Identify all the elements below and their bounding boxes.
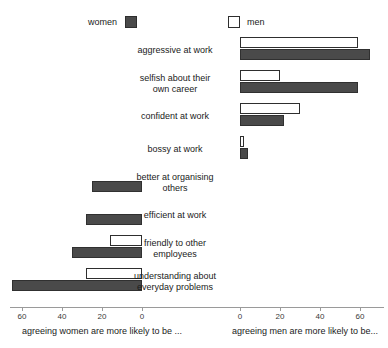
bar-women: [12, 280, 142, 291]
axis-tick: [320, 307, 321, 311]
grouped-diverging-bar-chart: women men aggressive at workselfish abou…: [0, 0, 388, 348]
axis-baseline: [10, 307, 384, 308]
axis-tick: [62, 307, 63, 311]
chart-row: efficient at work: [0, 199, 388, 232]
axis-tick-label-left: 60: [18, 312, 27, 321]
bar-women: [92, 181, 142, 192]
axis-title-right: agreeing men are more likely to be...: [232, 326, 378, 337]
legend-label-men: men: [247, 17, 265, 27]
category-label: aggressive at work: [118, 34, 232, 67]
axis-tick: [280, 307, 281, 311]
axis-tick-label-right: 40: [316, 312, 325, 321]
bar-men: [240, 37, 358, 48]
axis-tick: [142, 307, 143, 311]
bar-women: [86, 214, 142, 225]
axis-tick-label-right: 0: [238, 312, 242, 321]
category-label: bossy at work: [118, 133, 232, 166]
bar-women: [240, 148, 248, 159]
chart-legend: women men: [0, 14, 388, 34]
bar-men: [240, 103, 300, 114]
axis-tick: [360, 307, 361, 311]
bar-men: [86, 268, 142, 279]
bar-men: [110, 235, 142, 246]
bar-men: [240, 136, 244, 147]
category-label: confident at work: [118, 100, 232, 133]
legend-swatch-women-icon: [125, 16, 137, 28]
axis-tick-label-left: 20: [98, 312, 107, 321]
chart-row: better at organising others: [0, 166, 388, 199]
axis-tick: [102, 307, 103, 311]
axis-title-left: agreeing women are more likely to be ...: [22, 326, 182, 337]
legend-label-women: women: [88, 17, 117, 27]
chart-row: friendly to other employees: [0, 232, 388, 265]
chart-row: understanding about everyday problems: [0, 265, 388, 298]
axis-tick-label-left: 0: [140, 312, 144, 321]
chart-row: aggressive at work: [0, 34, 388, 67]
bar-women: [240, 49, 370, 60]
axis-tick-label-left: 40: [58, 312, 67, 321]
bar-women: [240, 115, 284, 126]
bar-men: [240, 70, 280, 81]
chart-row: selfish about their own career: [0, 67, 388, 100]
category-label: selfish about their own career: [118, 67, 232, 100]
axis-tick: [240, 307, 241, 311]
axis-tick: [22, 307, 23, 311]
legend-entry-women: women: [88, 14, 137, 30]
legend-entry-men: men: [228, 14, 265, 30]
chart-row: confident at work: [0, 100, 388, 133]
axis-tick-label-right: 20: [276, 312, 285, 321]
plot-area: aggressive at workselfish about their ow…: [0, 34, 388, 302]
chart-row: bossy at work: [0, 133, 388, 166]
bar-women: [240, 82, 358, 93]
bar-women: [72, 247, 142, 258]
axis-tick-label-right: 60: [356, 312, 365, 321]
legend-swatch-men-icon: [228, 16, 240, 28]
